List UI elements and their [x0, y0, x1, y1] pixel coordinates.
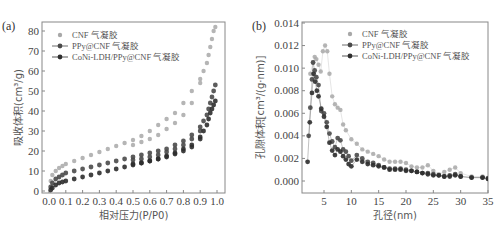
data-point: [105, 161, 110, 166]
data-point: [333, 153, 338, 158]
data-point: [321, 49, 325, 53]
data-point: [349, 137, 353, 141]
data-point: [338, 149, 343, 154]
x-tick-label: 0.0: [42, 195, 56, 207]
series-0: [308, 43, 490, 179]
x-tick-label: 0.9: [193, 195, 207, 207]
data-point: [89, 165, 94, 170]
data-point: [322, 114, 327, 119]
data-point: [206, 117, 211, 122]
data-point: [139, 140, 143, 144]
data-point: [72, 159, 76, 163]
data-point: [327, 72, 331, 76]
x-tick-label: 0.6: [143, 195, 157, 207]
data-point: [97, 171, 102, 176]
data-point: [156, 157, 161, 162]
legend-marker: [58, 55, 63, 60]
data-point: [316, 94, 321, 99]
data-point: [393, 160, 397, 164]
data-point: [201, 119, 206, 124]
data-point: [164, 155, 169, 160]
data-point: [131, 162, 136, 167]
series-2: [305, 71, 490, 181]
y-tick-label: 10: [28, 165, 40, 177]
data-point: [469, 175, 474, 180]
data-point: [330, 94, 334, 98]
data-point: [122, 165, 127, 170]
data-point: [308, 105, 313, 110]
data-point: [54, 169, 58, 173]
data-point: [327, 140, 332, 145]
data-point: [89, 173, 94, 178]
data-point: [480, 175, 485, 180]
x-tick-label: 10: [346, 195, 358, 207]
x-tick-label: 0.1: [59, 195, 73, 207]
data-point: [314, 57, 318, 61]
y-tick-label: 0.002: [274, 152, 299, 164]
data-point: [201, 129, 206, 134]
data-point: [387, 160, 391, 164]
data-point: [343, 149, 348, 154]
data-point: [420, 171, 425, 176]
data-point: [319, 106, 324, 111]
isotherm-chart: (a)010203040506070800.00.10.20.30.40.50.…: [0, 0, 250, 230]
legend-label: PPy@CNF 气凝胶: [72, 41, 139, 51]
y-axis-title: 吸收体积(cm³/g): [12, 69, 24, 146]
data-point: [206, 53, 210, 57]
data-point: [213, 83, 218, 88]
y-tick-label: 0.014: [274, 17, 299, 29]
data-point: [147, 159, 152, 164]
data-point: [181, 101, 185, 105]
data-point: [63, 171, 68, 176]
data-point: [80, 167, 85, 172]
pore-distribution-chart: (b)0.0000.0020.0040.0060.0080.0100.0120.…: [250, 0, 499, 230]
x-tick-label: 35: [483, 195, 495, 207]
data-point: [72, 169, 77, 174]
data-point: [148, 137, 152, 141]
data-point: [344, 128, 348, 132]
y-tick-label: 0.012: [274, 39, 299, 51]
data-point: [341, 122, 345, 126]
y-tick-label: 0.004: [274, 129, 299, 141]
data-point: [164, 127, 168, 131]
x-tick-label: 1.0: [210, 195, 224, 207]
data-point: [210, 37, 214, 41]
data-point: [442, 170, 446, 174]
y-tick-label: 0: [34, 185, 40, 197]
data-point: [205, 61, 209, 65]
data-point: [131, 143, 135, 147]
data-point: [305, 159, 310, 164]
x-tick-label: 0.7: [160, 195, 174, 207]
data-point: [316, 63, 320, 67]
data-point: [486, 176, 491, 181]
y-tick-label: 60: [28, 65, 40, 77]
legend-marker: [58, 33, 62, 37]
legend-marker: [348, 54, 353, 59]
data-point: [355, 142, 359, 146]
x-axis-title: 相对压力(P/P0): [99, 209, 169, 221]
legend-label: PPy@CNF 气凝胶: [362, 40, 429, 50]
data-point: [398, 160, 402, 164]
data-point: [453, 165, 457, 169]
data-point: [156, 123, 160, 127]
data-point: [181, 113, 185, 117]
data-point: [376, 164, 381, 169]
data-point: [198, 81, 202, 85]
data-point: [208, 45, 212, 49]
data-point: [323, 43, 327, 47]
data-point: [420, 165, 424, 169]
y-tick-label: 40: [28, 105, 40, 117]
x-tick-label: 20: [401, 195, 413, 207]
data-point: [415, 165, 419, 169]
data-point: [122, 157, 127, 162]
legend-label: CNF 气凝胶: [72, 30, 118, 40]
data-point: [211, 29, 215, 33]
y-tick-label: 0.010: [274, 62, 299, 74]
data-point: [354, 157, 359, 162]
y-tick-label: 20: [28, 145, 40, 157]
legend: CNF 气凝胶PPy@CNF 气凝胶CoNi-LDH/PPy@CNF 气凝胶: [342, 29, 470, 61]
data-point: [338, 138, 343, 143]
data-point: [114, 167, 119, 172]
data-point: [189, 137, 194, 142]
data-point: [458, 174, 463, 179]
